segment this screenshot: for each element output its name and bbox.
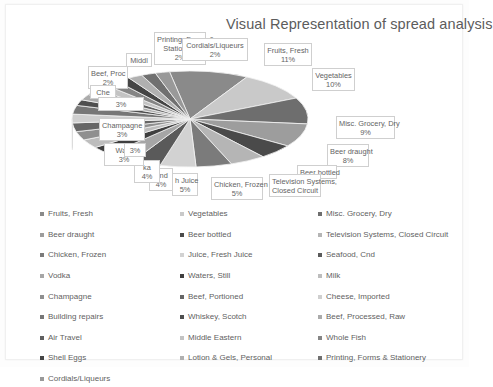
legend-item[interactable]: Beef, Processed, Raw	[318, 307, 460, 328]
data-label-value: 11%	[267, 55, 309, 64]
legend-item-label: Beer bottled	[188, 230, 231, 240]
data-label-middle-eastern[interactable]: Middl	[126, 53, 152, 67]
legend-item-label: Cordials/Liqueurs	[48, 374, 110, 384]
legend-item-label: Vegetables	[188, 209, 228, 219]
legend-item[interactable]: Beer bottled	[180, 225, 322, 246]
legend-swatch-icon	[318, 356, 322, 360]
legend-item[interactable]: Beer draught	[40, 225, 182, 246]
data-label-text: Champagne	[102, 121, 142, 130]
data-label-value: 5%	[214, 189, 260, 198]
legend-item[interactable]: Champagne	[40, 286, 182, 307]
data-label-value: 3%	[102, 130, 142, 139]
data-label-value: 4%	[137, 172, 157, 181]
legend-item-label: Lotion & Gels, Personal	[188, 353, 272, 363]
legend-item[interactable]: Building repairs	[40, 307, 182, 328]
legend-swatch-icon	[40, 356, 44, 360]
legend-column-2: VegetablesBeer bottledJuice, Fresh Juice…	[180, 204, 322, 369]
legend-item[interactable]: Whiskey, Scotch	[180, 307, 322, 328]
legend-item-label: Fruits, Fresh	[48, 209, 93, 219]
legend-item[interactable]: Juice, Fresh Juice	[180, 245, 322, 266]
legend-swatch-icon	[40, 212, 44, 216]
data-label-text: Vegetables	[315, 71, 352, 80]
legend-item-label: Beef, Portioned	[188, 292, 243, 302]
legend-item[interactable]: Cheese, Imported	[318, 286, 460, 307]
data-label-building-repairs[interactable]: 3%	[98, 97, 144, 111]
legend-item-label: Beef, Processed, Raw	[326, 312, 405, 322]
legend-item-label: Chicken, Frozen	[48, 250, 106, 260]
legend-swatch-icon	[180, 315, 184, 319]
legend-item-label: Whole Fish	[326, 333, 366, 343]
data-label-value: 9%	[339, 128, 392, 137]
legend-swatch-icon	[180, 336, 184, 340]
data-label-juice-fresh-juice[interactable]: h Juice5%	[172, 173, 198, 196]
legend-swatch-icon	[40, 336, 44, 340]
chart-legend: Fruits, FreshBeer draughtChicken, Frozen…	[40, 204, 458, 350]
data-label-milk[interactable]: 3%	[124, 143, 146, 157]
legend-swatch-icon	[318, 295, 322, 299]
data-label-text: Chicken, Frozen	[214, 180, 260, 189]
legend-item[interactable]: Lotion & Gels, Personal	[180, 348, 322, 369]
data-label-champagne[interactable]: Champagne3%	[99, 118, 145, 141]
legend-swatch-icon	[318, 274, 322, 278]
legend-item[interactable]: Television Systems, Closed Circuit	[318, 225, 460, 246]
legend-swatch-icon	[318, 336, 322, 340]
legend-item-label: Cheese, Imported	[326, 292, 390, 302]
legend-swatch-icon	[180, 274, 184, 278]
legend-item[interactable]: Whole Fish	[318, 328, 460, 349]
data-label-text: Beef, Proc	[91, 69, 125, 78]
legend-item[interactable]: Vegetables	[180, 204, 322, 225]
data-label-value: 8%	[330, 156, 366, 165]
legend-item[interactable]: Vodka	[40, 266, 182, 287]
data-label-text: Middl	[129, 56, 149, 65]
legend-item[interactable]: Milk	[318, 266, 460, 287]
data-label-cordials-liqueurs[interactable]: Cordials/Liqueurs2%	[182, 38, 248, 61]
legend-item[interactable]: Cordials/Liqueurs	[40, 369, 182, 387]
legend-item[interactable]: Middle Eastern	[180, 328, 322, 349]
legend-swatch-icon	[180, 233, 184, 237]
data-label-text: Closed Circuit	[272, 186, 318, 195]
legend-item-label: Misc. Grocery, Dry	[326, 209, 392, 219]
data-label-misc-grocery-dry[interactable]: Misc. Grocery, Dry9%	[336, 116, 395, 139]
legend-item[interactable]: Seafood, Cnd	[318, 245, 460, 266]
legend-swatch-icon	[40, 253, 44, 257]
legend-item[interactable]: Waters, Still	[180, 266, 322, 287]
data-label-text: h Juice	[175, 176, 195, 185]
data-label-text: Beer draught	[330, 147, 366, 156]
slide-canvas: Visual Representation of spread analysis…	[5, 4, 463, 360]
data-label-value: 3%	[127, 146, 143, 155]
data-label-vegetables[interactable]: Vegetables10%	[312, 68, 355, 91]
data-label-television-systems-closed-circuit[interactable]: Television Systems,Closed Circuit	[269, 174, 321, 197]
legend-swatch-icon	[180, 212, 184, 216]
legend-item-label: Beer draught	[48, 230, 94, 240]
legend-swatch-icon	[180, 356, 184, 360]
legend-item[interactable]: Beef, Portioned	[180, 286, 322, 307]
legend-swatch-icon	[318, 233, 322, 237]
legend-item-label: Building repairs	[48, 312, 103, 322]
legend-item[interactable]: Misc. Grocery, Dry	[318, 204, 460, 225]
data-label-fruits-fresh[interactable]: Fruits, Fresh11%	[264, 43, 312, 66]
legend-item-label: Vodka	[48, 271, 70, 281]
legend-item-label: Champagne	[48, 292, 92, 302]
data-label-chicken-frozen[interactable]: Chicken, Frozen5%	[211, 177, 263, 200]
legend-column-1: Fruits, FreshBeer draughtChicken, Frozen…	[40, 204, 182, 387]
legend-item[interactable]: Shell Eggs	[40, 348, 182, 369]
data-label-value: 2%	[185, 50, 245, 59]
data-label-value: 5%	[175, 185, 195, 194]
legend-swatch-icon	[40, 233, 44, 237]
legend-item-label: Shell Eggs	[48, 353, 86, 363]
legend-item-label: Juice, Fresh Juice	[188, 250, 252, 260]
legend-item[interactable]: Printing, Forms & Stationery	[318, 348, 460, 369]
legend-item-label: Milk	[326, 271, 340, 281]
data-label-text: Cordials/Liqueurs	[185, 41, 245, 50]
legend-item-label: Waters, Still	[188, 271, 230, 281]
data-label-beer-draught[interactable]: Beer draught8%	[327, 144, 369, 167]
legend-item-label: Printing, Forms & Stationery	[326, 353, 426, 363]
legend-item[interactable]: Air Travel	[40, 328, 182, 349]
data-label-value: 10%	[315, 80, 352, 89]
legend-swatch-icon	[40, 315, 44, 319]
legend-swatch-icon	[40, 377, 44, 381]
legend-item[interactable]: Fruits, Fresh	[40, 204, 182, 225]
legend-item[interactable]: Chicken, Frozen	[40, 245, 182, 266]
legend-swatch-icon	[40, 295, 44, 299]
legend-item-label: Whiskey, Scotch	[188, 312, 247, 322]
